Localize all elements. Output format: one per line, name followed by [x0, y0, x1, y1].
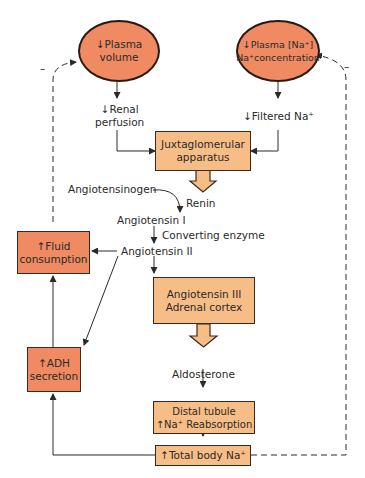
distal-line1: Distal tubule	[172, 405, 236, 418]
angiotensin-iii-box: Angiotensin III Adrenal cortex	[153, 277, 255, 324]
renal-line2: perfusion	[95, 116, 144, 129]
total-na-text: ↑Total body Na⁺	[160, 449, 246, 462]
fluid-line1: ↑Fluid	[37, 240, 71, 253]
juxtaglomerular-apparatus-box: Juxtaglomerular apparatus	[155, 131, 251, 171]
adh-line1: ↑ADH	[38, 357, 70, 370]
distal-line2: ↑Na⁺ Reabsorption	[156, 418, 253, 431]
plasma-na-line2: Na⁺concentration	[236, 51, 320, 64]
angiotensin-ii-label: Angiotensin II	[121, 245, 193, 258]
plasma-na-line1: ↓Plasma [Na⁺]	[243, 38, 314, 51]
renal-line1: ↓Renal	[95, 103, 144, 116]
plasma-volume-node: ↓Plasma volume	[78, 20, 160, 82]
filtered-na-label: ↓Filtered Na⁺	[243, 110, 314, 123]
adh-line2: secretion	[30, 370, 78, 383]
fluid-line2: consumption	[20, 253, 88, 266]
angiotensin-i-label: Angiotensin I	[117, 214, 186, 227]
converting-enzyme-label: Converting enzyme	[162, 229, 265, 242]
renal-perfusion-label: ↓Renal perfusion	[95, 103, 144, 129]
plasma-na-node: ↓Plasma [Na⁺] Na⁺concentration	[236, 20, 320, 82]
angiotensinogen-label: Angiotensinogen	[68, 183, 156, 196]
ang3-line2: Adrenal cortex	[166, 301, 243, 314]
aldosterone-label: Aldosterone	[172, 368, 235, 381]
jga-line1: Juxtaglomerular	[161, 138, 245, 151]
total-body-na-box: ↑Total body Na⁺	[155, 445, 251, 466]
minus-left: –	[40, 62, 45, 75]
distal-tubule-box: Distal tubule ↑Na⁺ Reabsorption	[153, 401, 255, 434]
fluid-consumption-box: ↑Fluid consumption	[17, 231, 90, 274]
minus-right: –	[344, 60, 349, 73]
adh-secretion-box: ↑ADH secretion	[27, 347, 81, 392]
plasma-volume-line1: ↓Plasma	[96, 38, 143, 51]
ang3-line1: Angiotensin III	[167, 288, 242, 301]
plasma-volume-line2: volume	[100, 51, 139, 64]
jga-line2: apparatus	[176, 151, 229, 164]
renin-label: Renin	[186, 197, 216, 210]
